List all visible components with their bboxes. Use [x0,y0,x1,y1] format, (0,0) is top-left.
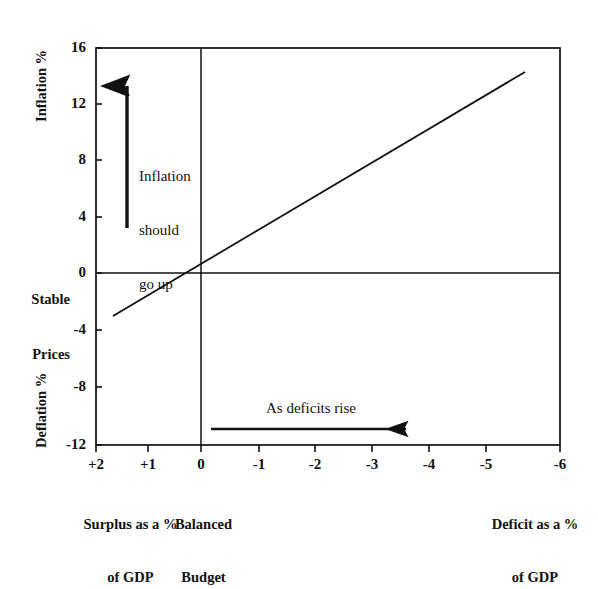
x-axis-label-deficit-line1: Deficit as a % [455,516,598,534]
x-tick-label-pos2: +2 [74,456,118,473]
y-axis-ticks [96,48,102,445]
y-tick-label-16: 16 [52,39,86,56]
x-tick-label-neg6: -6 [538,456,582,473]
x-tick-label-neg1: -1 [237,456,281,473]
x-tick-label-pos1: +1 [126,456,170,473]
x-tick-label-neg2: -2 [293,456,337,473]
annotation-as-deficits-rise: As deficits rise [211,400,411,417]
x-axis-label-balanced-line2: Budget [151,569,256,587]
x-tick-label-neg4: -4 [407,456,451,473]
stable-prices-label: Stable Prices [8,254,70,399]
stable-prices-line2: Prices [8,345,70,363]
x-axis-label-deficit-line2: of GDP [455,569,598,587]
annotation-inflation-line1: Inflation [139,167,191,185]
y-tick-label-8: 8 [52,151,86,168]
y-tick-label-4: 4 [52,208,86,225]
y-tick-label-12: 12 [52,95,86,112]
y-axis-title-inflation: Inflation % [33,50,49,122]
annotation-inflation-line2: should [139,221,191,239]
annotation-inflation-line3: go up [139,275,191,293]
x-tick-label-neg5: -5 [464,456,508,473]
y-tick-label-neg12: -12 [52,436,86,453]
x-axis-label-balanced-budget: Balanced Budget [151,481,256,589]
x-axis-label-balanced-line1: Balanced [151,516,256,534]
x-axis-label-deficit: Deficit as a % of GDP [455,481,598,589]
annotation-inflation-should-go-up: Inflation should go up [139,131,191,329]
x-tick-label-neg3: -3 [350,456,394,473]
x-axis-ticks [96,445,560,452]
x-tick-label-0: 0 [179,456,223,473]
stable-prices-line1: Stable [8,290,70,308]
